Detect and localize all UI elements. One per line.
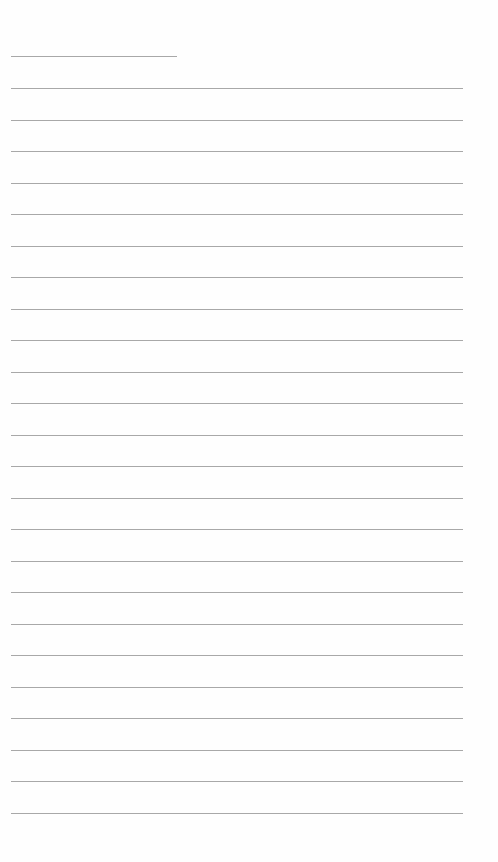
ruled-line — [11, 718, 463, 719]
ruled-line — [11, 403, 463, 404]
ruled-line — [11, 246, 463, 247]
ruled-line — [11, 309, 463, 310]
ruled-line — [11, 624, 463, 625]
ruled-line — [11, 151, 463, 152]
ruled-line — [11, 277, 463, 278]
ruled-line — [11, 466, 463, 467]
ruled-line — [11, 372, 463, 373]
ruled-line — [11, 561, 463, 562]
ruled-line — [11, 340, 463, 341]
header-name-line — [11, 56, 177, 57]
ruled-line — [11, 813, 463, 814]
ruled-line — [11, 529, 463, 530]
ruled-line — [11, 750, 463, 751]
ruled-line — [11, 498, 463, 499]
ruled-line — [11, 214, 463, 215]
ruled-line — [11, 781, 463, 782]
ruled-line — [11, 592, 463, 593]
ruled-line — [11, 435, 463, 436]
ruled-line — [11, 120, 463, 121]
ruled-line — [11, 687, 463, 688]
ruled-line — [11, 88, 463, 89]
lined-paper-page — [0, 0, 498, 862]
ruled-line — [11, 655, 463, 656]
ruled-line — [11, 183, 463, 184]
